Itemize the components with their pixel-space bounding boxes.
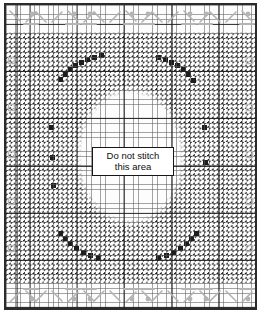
cross-stitch-chart: Do not stitch this area	[0, 0, 263, 318]
border-band-bottom	[6, 282, 255, 308]
do-not-stitch-label-line-1: Do not stitch	[96, 150, 170, 161]
border-band-top	[6, 5, 255, 31]
pattern-frame: Do not stitch this area	[4, 3, 257, 310]
do-not-stitch-label: Do not stitch this area	[92, 147, 174, 176]
do-not-stitch-label-line-2: this area	[96, 161, 170, 172]
